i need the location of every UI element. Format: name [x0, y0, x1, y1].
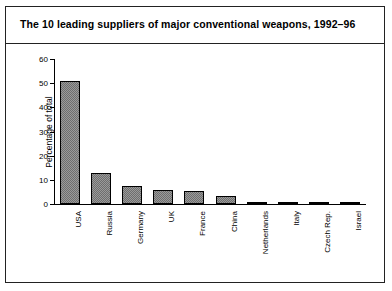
bar: [309, 202, 329, 204]
plot-area: Percentage of total 0102030405060 USARus…: [54, 59, 370, 205]
x-tick-label: Italy: [292, 211, 301, 226]
y-tick-mark: [50, 156, 54, 157]
x-tick-label: Netherlands: [261, 211, 270, 254]
x-axis-line: [54, 204, 366, 205]
y-tick-mark: [50, 83, 54, 84]
figure-frame: The 10 leading suppliers of major conven…: [5, 6, 385, 283]
y-axis-line: [54, 59, 55, 205]
x-tick-label: France: [198, 211, 207, 236]
bar: [184, 191, 204, 204]
x-tick-label: China: [230, 211, 239, 232]
x-tick-label: USA: [74, 211, 83, 227]
x-tick-label: Israel: [354, 211, 363, 231]
chart-title: The 10 leading suppliers of major conven…: [20, 18, 355, 30]
x-tick-label: UK: [167, 211, 176, 222]
y-tick-label: 50: [39, 79, 48, 88]
x-tick-label: Russia: [105, 211, 114, 235]
y-tick-label: 40: [39, 103, 48, 112]
y-tick-mark: [50, 180, 54, 181]
y-tick-label: 20: [39, 151, 48, 160]
y-tick-mark: [50, 204, 54, 205]
bar: [91, 173, 111, 204]
x-tick-label: Germany: [136, 211, 145, 244]
y-tick-label: 30: [39, 127, 48, 136]
bar: [278, 202, 298, 204]
bar: [122, 186, 142, 204]
y-tick-label: 0: [44, 200, 48, 209]
x-tick-label: Czech Rep.: [323, 211, 332, 253]
bar: [153, 190, 173, 205]
bar: [340, 202, 360, 204]
y-tick-mark: [50, 107, 54, 108]
y-tick-label: 10: [39, 175, 48, 184]
bar: [216, 196, 236, 204]
title-divider: [6, 43, 384, 44]
bar: [60, 81, 80, 204]
y-tick-label: 60: [39, 55, 48, 64]
y-tick-mark: [50, 59, 54, 60]
bar: [247, 202, 267, 204]
y-tick-mark: [50, 132, 54, 133]
